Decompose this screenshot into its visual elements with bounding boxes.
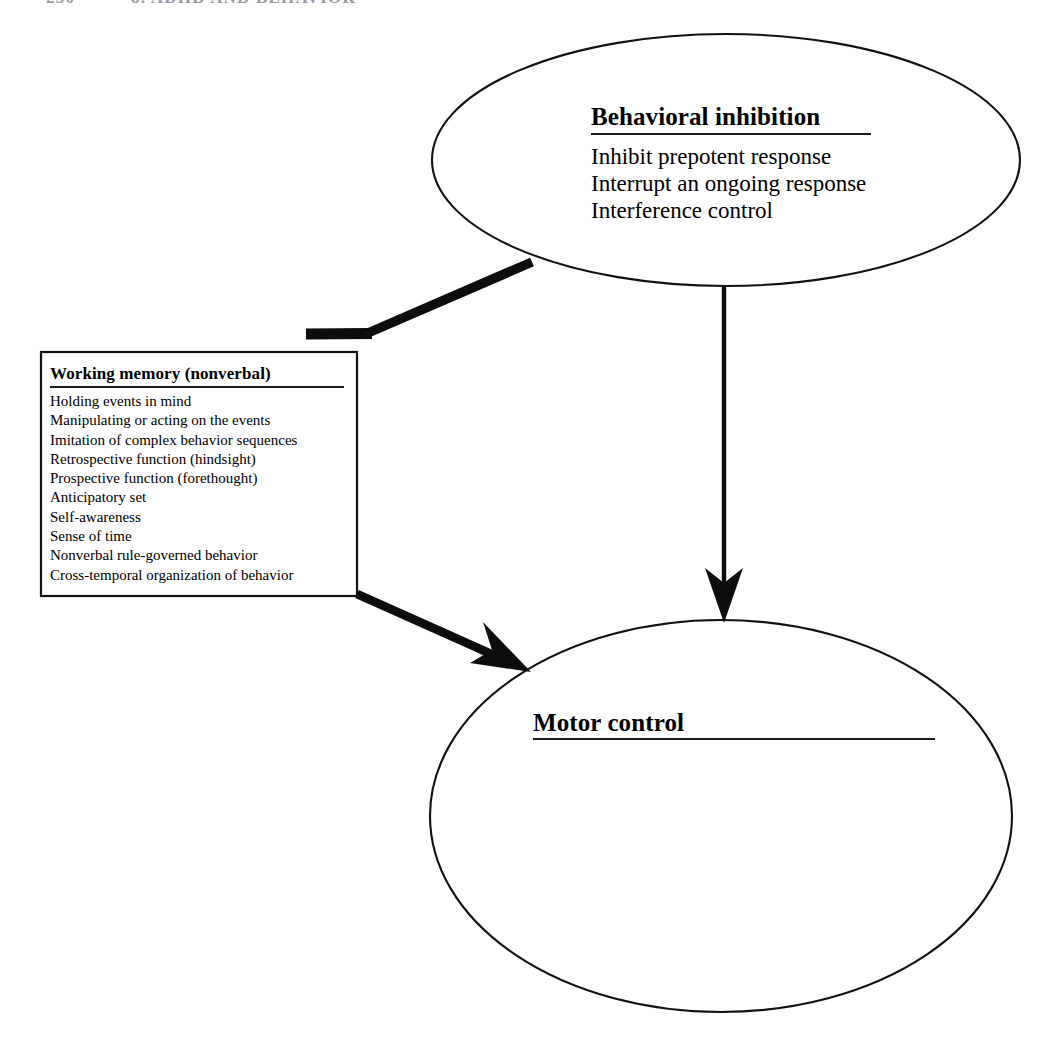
working-memory-title-wrap: Working memory (nonverbal) xyxy=(50,364,350,384)
connector-working-memory-to-motor-control[interactable] xyxy=(357,594,531,672)
list-item: Anticipatory set xyxy=(50,488,297,507)
working-memory-title: Working memory (nonverbal) xyxy=(50,364,350,384)
list-item: Holding events in mind xyxy=(50,392,297,411)
list-item: Retrospective function (hindsight) xyxy=(50,450,297,469)
list-item: Interrupt an ongoing response xyxy=(591,170,866,197)
behavioral-inhibition-title-underline xyxy=(591,133,871,135)
motor-control-ellipse[interactable] xyxy=(430,620,1012,1012)
working-memory-title-underline xyxy=(50,386,344,388)
list-item: Manipulating or acting on the events xyxy=(50,411,297,430)
list-item: Prospective function (forethought) xyxy=(50,469,297,488)
motor-control-title: Motor control xyxy=(533,709,684,737)
list-item: Interference control xyxy=(591,197,866,224)
connector-inhibition-to-working-memory[interactable] xyxy=(306,262,532,334)
list-item: Inhibit prepotent response xyxy=(591,143,866,170)
list-item: Imitation of complex behavior sequences xyxy=(50,431,297,450)
connector-inhibition-to-motor-control[interactable] xyxy=(705,286,743,623)
motor-control-title-underline xyxy=(533,738,935,740)
behavioral-inhibition-title: Behavioral inhibition xyxy=(591,103,820,131)
list-item: Sense of time xyxy=(50,527,297,546)
behavioral-inhibition-item-list: Inhibit prepotent response Interrupt an … xyxy=(591,143,866,224)
list-item: Self-awareness xyxy=(50,508,297,527)
list-item: Nonverbal rule-governed behavior xyxy=(50,546,297,565)
diagram-page: 2308. ADHD AND BEHAVIOR Behavioral inhi xyxy=(0,0,1049,1053)
working-memory-item-list: Holding events in mind Manipulating or a… xyxy=(50,392,297,585)
list-item: Cross-temporal organization of behavior xyxy=(50,566,297,585)
